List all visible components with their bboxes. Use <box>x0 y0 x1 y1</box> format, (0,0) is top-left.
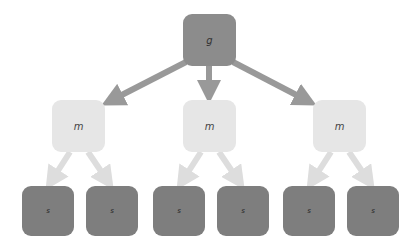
root-node-g: g <box>183 14 236 66</box>
middle-node-1: m <box>52 100 105 152</box>
middle-arrows <box>52 152 368 180</box>
leaf-node-1: s <box>22 186 74 236</box>
leaf-node-2: s <box>86 186 138 236</box>
middle-node-3: m <box>313 100 366 152</box>
leaf-node-3: s <box>153 186 205 236</box>
node-label: m <box>74 121 84 132</box>
root-arrows <box>112 62 306 100</box>
node-label: g <box>206 35 212 46</box>
node-label: s <box>177 207 181 215</box>
middle-node-2: m <box>183 100 236 152</box>
node-label: m <box>335 121 345 132</box>
node-label: s <box>371 207 375 215</box>
node-label: m <box>205 121 215 132</box>
node-label: s <box>241 207 245 215</box>
node-label: s <box>110 207 114 215</box>
node-label: s <box>46 207 50 215</box>
leaf-node-5: s <box>283 186 335 236</box>
node-label: s <box>307 207 311 215</box>
leaf-node-6: s <box>347 186 399 236</box>
leaf-node-4: s <box>217 186 269 236</box>
